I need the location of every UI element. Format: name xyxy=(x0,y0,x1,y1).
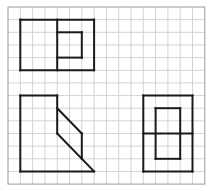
drawing-edge xyxy=(57,134,94,172)
diagram-svg xyxy=(0,0,211,191)
grid-diagram xyxy=(0,0,211,191)
